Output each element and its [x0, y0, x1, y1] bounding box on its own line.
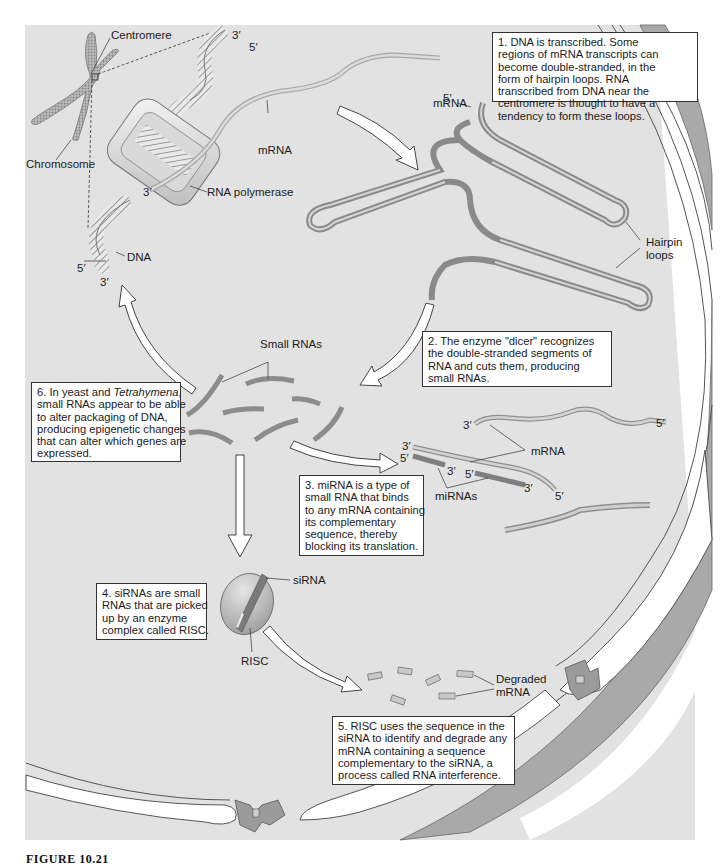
prime-polymerase-3: 3′ — [143, 186, 152, 198]
prime-mrna-left-3: 3′ — [402, 440, 411, 452]
label-hairpin-loops-2: loops — [646, 249, 674, 261]
step-3-line: to any mRNA containing — [305, 504, 418, 516]
label-dna: DNA — [127, 251, 152, 263]
step-6-suffix: , — [178, 386, 181, 398]
step-6-box: 6. In yeast and Tetrahymena, small RNAs … — [31, 382, 181, 462]
step-3-line: small RNA that binds — [305, 491, 418, 503]
prime-dna-top-5: 5′ — [249, 41, 258, 53]
label-hairpin-loops-1: Hairpin — [646, 236, 682, 248]
step-5-line: mRNA containing a sequence — [338, 745, 509, 757]
label-mrna-transcript: mRNA — [258, 144, 292, 156]
prime-mrna-top-3: 3′ — [463, 419, 472, 431]
label-rna-polymerase: RNA polymerase — [207, 186, 293, 198]
step-2-line: small RNAs. — [428, 372, 606, 384]
step-5-box: 5. RISC uses the sequence in the siRNA t… — [332, 716, 515, 785]
prime-mrna-top-5: 5′ — [656, 417, 665, 429]
step-1-line: centromere is thought to have a — [498, 97, 692, 109]
step-2-box: 2. The enzyme "dicer" recognizes the dou… — [422, 331, 612, 387]
label-chromosome: Chromosome — [26, 158, 95, 170]
step-5-line: process called RNA interference. — [338, 769, 509, 781]
step-3-line: its complementary — [305, 516, 418, 528]
label-mrna-target: mRNA — [531, 445, 565, 457]
step-5-line: 5. RISC uses the sequence in the — [338, 720, 509, 732]
step-4-line: up by an enzyme — [102, 612, 201, 624]
step-5-line: complementary to the siRNA, a — [338, 757, 509, 769]
prime-mrna-5: 5′ — [443, 92, 452, 104]
prime-dna-bottom-5: 5′ — [77, 262, 86, 274]
step-3-line: 3. miRNA is a type of — [305, 479, 418, 491]
step-5-line: siRNA to identify and degrade any — [338, 732, 509, 744]
step-6-prefix: 6. In yeast and — [37, 386, 114, 398]
prime-mirna-b-3: 3′ — [524, 482, 533, 494]
step-1-line: form of hairpin loops. RNA — [498, 73, 692, 85]
step-4-line: 4. siRNAs are small — [102, 587, 201, 599]
step-6-line-1: 6. In yeast and Tetrahymena, — [37, 386, 175, 398]
prime-mrna-end-5: 5′ — [555, 490, 564, 502]
step-1-line: tendency to form these loops. — [498, 110, 692, 122]
label-centromere: Centromere — [111, 29, 172, 41]
step-4-line: RNAs that are picked — [102, 599, 201, 611]
step-1-line: become double-stranded, in the — [498, 61, 692, 73]
prime-mirna-left-5: 5′ — [400, 452, 409, 464]
step-1-line: regions of mRNA transcripts can — [498, 48, 692, 60]
step-4-box: 4. siRNAs are small RNAs that are picked… — [96, 583, 207, 640]
step-1-line: 1. DNA is transcribed. Some — [498, 36, 692, 48]
step-4-line: complex called RISC. — [102, 624, 201, 636]
step-6-line: small RNAs appear to be able — [37, 398, 175, 410]
step-3-line: blocking its translation. — [305, 540, 418, 552]
prime-mirna-b-5: 5′ — [465, 468, 474, 480]
prime-dna-top-3: 3′ — [232, 29, 241, 41]
step-2-line: the double-stranded segments of — [428, 347, 606, 359]
label-small-rnas: Small RNAs — [260, 338, 322, 350]
step-6-line: that can alter which genes are — [37, 435, 175, 447]
step-6-line: producing epigenetic changes — [37, 423, 175, 435]
step-6-line: expressed. — [37, 447, 175, 459]
step-3-box: 3. miRNA is a type of small RNA that bin… — [299, 475, 424, 556]
label-degraded-2: mRNA — [496, 686, 530, 698]
step-3-line: sequence, thereby — [305, 528, 418, 540]
step-2-line: RNA and cuts them, producing — [428, 360, 606, 372]
figure-caption: FIGURE 10.21 — [26, 852, 109, 867]
prime-mirna-a-3: 3′ — [447, 465, 456, 477]
step-1-box: 1. DNA is transcribed. Some regions of m… — [492, 32, 698, 102]
label-mirnas: miRNAs — [435, 490, 477, 502]
label-risc: RISC — [241, 655, 268, 667]
organism-name: Tetrahymena — [114, 386, 179, 398]
label-sirna: siRNA — [293, 574, 326, 586]
step-2-line: 2. The enzyme "dicer" recognizes — [428, 335, 606, 347]
step-6-line: to alter packaging of DNA, — [37, 411, 175, 423]
step-1-line: transcribed from DNA near the — [498, 85, 692, 97]
prime-dna-bottom-3: 3′ — [100, 276, 109, 288]
label-degraded-1: Degraded — [496, 673, 547, 685]
